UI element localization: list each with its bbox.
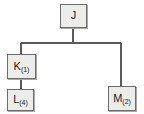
node-k-subscript: (1) [21, 65, 30, 72]
node-k-text: K [14, 60, 21, 72]
node-m-label: M(2) [113, 93, 131, 105]
node-j[interactable]: J [60, 4, 87, 28]
node-l[interactable]: L(4) [7, 89, 34, 111]
node-l-subscript: (4) [19, 99, 28, 106]
node-k[interactable]: K(1) [7, 54, 36, 79]
tree-diagram: J K(1) L(4) M(2) [0, 0, 144, 114]
node-m-text: M [113, 92, 122, 104]
node-l-label: L(4) [13, 94, 28, 106]
node-j-text: J [71, 9, 77, 21]
node-m-subscript: (2) [122, 97, 131, 104]
node-k-label: K(1) [14, 61, 30, 73]
node-m[interactable]: M(2) [108, 86, 136, 111]
node-j-label: J [71, 10, 77, 22]
